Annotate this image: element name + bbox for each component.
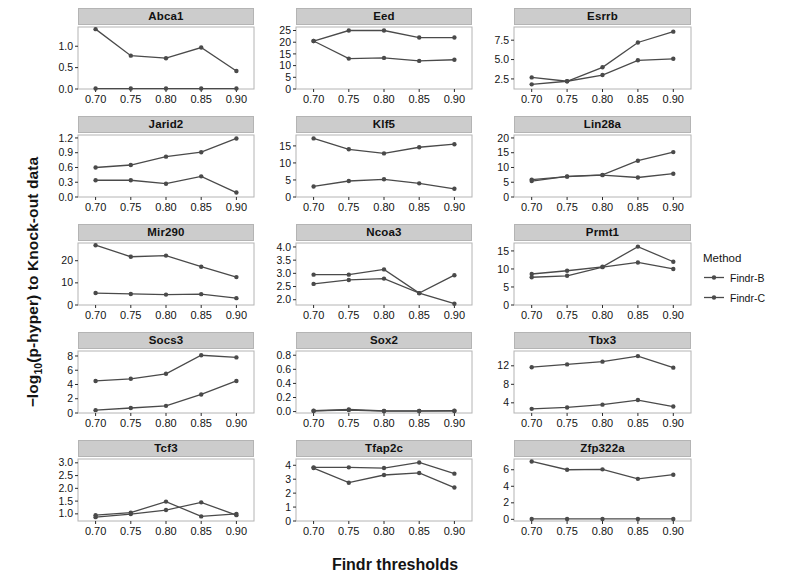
x-tick-label: 0.90 (444, 525, 465, 537)
x-tick-label: 0.90 (663, 417, 684, 429)
panel-plot-socs3: 024680.700.750.800.850.90 (42, 332, 260, 434)
y-tick-label: 3.0 (276, 267, 291, 279)
x-tick-label: 0.85 (408, 93, 429, 105)
data-point (600, 265, 604, 269)
data-point (671, 473, 675, 477)
x-tick-label: 0.70 (303, 201, 324, 213)
x-tick-label: 0.75 (556, 525, 577, 537)
data-point (347, 278, 351, 282)
data-point (311, 272, 315, 276)
y-tick-label: 10 (279, 59, 291, 71)
legend-item-findr-c[interactable]: Findr-C (703, 291, 787, 304)
y-tick-label: 3.5 (276, 254, 291, 266)
data-point (347, 272, 351, 276)
panel-klf5: Klf50510150.700.750.800.850.90 (260, 116, 478, 218)
legend: Method Findr-BFindr-C (703, 252, 787, 311)
panel-mir290: Mir290010200.700.750.800.850.90 (42, 224, 260, 326)
x-tick-label: 0.80 (592, 417, 613, 429)
data-point (417, 291, 421, 295)
panel-plot-prmt1: 0510150.700.750.800.850.90 (478, 224, 697, 326)
x-tick-label: 0.80 (592, 93, 613, 105)
panel-plot-jarid2: 0.00.30.60.91.20.700.750.800.850.90 (42, 116, 260, 218)
x-tick-label: 0.85 (627, 525, 648, 537)
data-point (199, 174, 203, 178)
y-tick-label: 10 (61, 276, 73, 288)
data-point (234, 190, 238, 194)
data-point (565, 79, 569, 83)
y-tick-label: 5 (503, 176, 509, 188)
x-tick-label: 0.90 (226, 93, 247, 105)
data-point (234, 296, 238, 300)
x-tick-label: 0.75 (120, 525, 141, 537)
x-tick-label: 0.80 (592, 309, 613, 321)
data-point (636, 517, 640, 521)
legend-item-findr-b[interactable]: Findr-B (703, 271, 787, 284)
data-point (636, 158, 640, 162)
data-point (671, 365, 675, 369)
y-tick-label: 4 (67, 378, 73, 390)
data-point (671, 171, 675, 175)
x-tick-label: 0.70 (85, 201, 106, 213)
y-tick-label: 15 (279, 48, 291, 60)
data-point (600, 517, 604, 521)
y-tick-label: 20 (61, 254, 73, 266)
y-tick-label: 1.0 (58, 40, 73, 52)
y-tick-label: 2.0 (58, 482, 73, 494)
x-tick-label: 0.75 (120, 201, 141, 213)
x-tick-label: 0.85 (408, 525, 429, 537)
data-point (452, 187, 456, 191)
panel-plot-zfp322a: 02460.700.750.800.850.90 (478, 440, 697, 542)
x-tick-label: 0.70 (303, 417, 324, 429)
data-point (234, 355, 238, 359)
data-point (530, 75, 534, 79)
y-tick-label: 5.0 (494, 53, 509, 65)
data-point (164, 56, 168, 60)
data-point (234, 69, 238, 73)
data-point (565, 174, 569, 178)
y-tick-label: 25 (279, 24, 291, 36)
data-point (164, 292, 168, 296)
panel-plot-ncoa3: 2.02.53.03.54.00.700.750.800.850.90 (260, 224, 478, 326)
x-tick-label: 0.90 (663, 93, 684, 105)
panel-sox2: Sox20.00.20.40.60.80.700.750.800.850.90 (260, 332, 478, 434)
x-tick-label: 0.85 (190, 417, 211, 429)
legend-label: Findr-C (730, 292, 765, 304)
y-tick-label: 5 (285, 174, 291, 186)
data-point (565, 362, 569, 366)
data-point (199, 45, 203, 49)
x-tick-label: 0.90 (444, 309, 465, 321)
y-tick-label: 1 (285, 501, 291, 513)
data-point (164, 404, 168, 408)
x-tick-label: 0.70 (85, 525, 106, 537)
data-point (530, 82, 534, 86)
data-point (199, 150, 203, 154)
data-point (530, 407, 534, 411)
x-tick-label: 0.70 (521, 201, 542, 213)
data-point (382, 409, 386, 413)
x-tick-label: 0.75 (338, 201, 359, 213)
data-point (164, 182, 168, 186)
panel-plot-abca1: 0.00.51.00.700.750.800.850.90 (42, 8, 260, 110)
y-tick-label: 4 (503, 480, 509, 492)
legend-title: Method (703, 252, 787, 264)
data-point (129, 178, 133, 182)
data-point (671, 29, 675, 33)
data-point (93, 243, 97, 247)
panel-prmt1: Prmt10510150.700.750.800.850.90 (478, 224, 697, 326)
panel-esrrb: Esrrb2.55.07.50.700.750.800.850.90 (478, 8, 697, 110)
data-point (93, 178, 97, 182)
x-tick-label: 0.70 (85, 93, 106, 105)
x-tick-label: 0.85 (408, 201, 429, 213)
x-tick-label: 0.90 (226, 201, 247, 213)
legend-entries: Findr-BFindr-C (703, 271, 787, 304)
data-point (671, 150, 675, 154)
data-point (234, 86, 238, 90)
x-tick-label: 0.80 (373, 201, 394, 213)
data-point (93, 165, 97, 169)
data-point (382, 56, 386, 60)
data-point (600, 467, 604, 471)
data-point (199, 392, 203, 396)
y-tick-label: 0 (67, 299, 73, 311)
data-point (199, 500, 203, 504)
data-point (565, 517, 569, 521)
